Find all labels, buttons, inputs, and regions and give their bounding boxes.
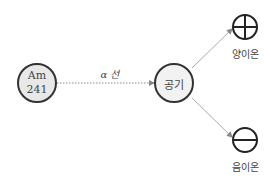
negative-ion-arrow (192, 98, 232, 137)
air-label: 공기 (159, 76, 189, 92)
positive-ion-icon (233, 15, 257, 39)
am-label: Am (22, 69, 52, 82)
positive-ion-label: 양이온 (225, 46, 265, 61)
mass-number-label: 241 (22, 83, 52, 96)
diagram: Am 241 α 선 공기 양이온 음이온 (0, 0, 271, 184)
alpha-ray-label: α 선 (90, 66, 130, 81)
negative-ion-label: 음이온 (225, 159, 265, 174)
negative-ion-icon (233, 128, 257, 152)
